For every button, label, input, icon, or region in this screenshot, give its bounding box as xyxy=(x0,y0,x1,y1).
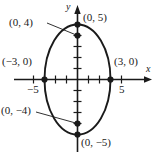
x-tick-label-5: 5 xyxy=(119,84,125,95)
point-label-0-4: (0, 4) xyxy=(9,17,33,28)
point-label-neg3-0: (−3, 0) xyxy=(2,56,32,67)
x-tick-label-neg5: −5 xyxy=(27,84,39,95)
point-label-3-0: (3, 0) xyxy=(114,56,138,67)
ellipse-graph-figure: y x −5 5 (0, 5) (0, 4) (−3, 0) (3, 0) (0… xyxy=(0,0,157,159)
point-label-0-5: (0, 5) xyxy=(83,12,107,23)
point-0-neg5 xyxy=(74,131,80,137)
x-axis-label: x xyxy=(146,64,150,74)
point-0-4 xyxy=(74,32,80,38)
point-3-0 xyxy=(107,76,113,82)
y-axis-label: y xyxy=(66,2,70,12)
point-0-5 xyxy=(74,21,80,27)
point-0-neg4 xyxy=(74,120,80,126)
point-label-0-neg4: (0, −4) xyxy=(1,105,31,116)
x-axis xyxy=(14,76,152,82)
point-neg3-0 xyxy=(41,76,47,82)
point-label-0-neg5: (0, −5) xyxy=(81,137,111,148)
